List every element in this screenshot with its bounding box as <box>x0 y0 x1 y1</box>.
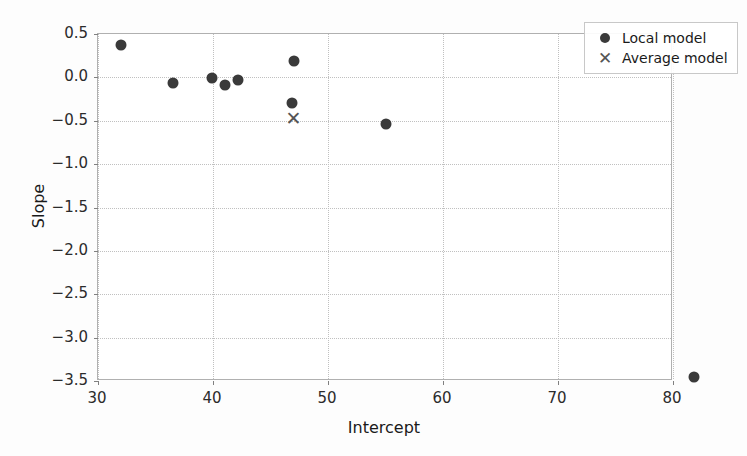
x-gridline <box>98 34 99 379</box>
x-tick <box>673 381 674 385</box>
data-point-local-model <box>233 74 244 85</box>
data-point-local-model <box>688 371 699 382</box>
x-tick-label: 70 <box>547 389 566 407</box>
y-tick <box>94 164 98 165</box>
plot-area: ✕ <box>97 33 672 380</box>
data-point-average-model: ✕ <box>286 109 302 128</box>
y-tick <box>94 77 98 78</box>
y-gridline <box>98 164 671 165</box>
y-gridline <box>98 338 671 339</box>
x-tick-label: 40 <box>202 389 221 407</box>
x-gridline <box>558 34 559 379</box>
cross-icon: ✕ <box>592 48 618 68</box>
x-tick <box>443 381 444 385</box>
y-gridline <box>98 251 671 252</box>
data-point-local-model <box>116 40 127 51</box>
x-axis-label: Intercept <box>348 418 420 437</box>
y-tick-label: −3.5 <box>40 371 88 389</box>
y-tick <box>94 208 98 209</box>
x-gridline <box>443 34 444 379</box>
y-tick-label: −2.5 <box>40 284 88 302</box>
x-gridline <box>213 34 214 379</box>
y-tick-label: −3.0 <box>40 328 88 346</box>
data-point-local-model <box>288 55 299 66</box>
x-tick <box>558 381 559 385</box>
x-gridline <box>328 34 329 379</box>
y-tick-label: −0.5 <box>40 111 88 129</box>
x-tick-label: 50 <box>317 389 336 407</box>
y-gridline <box>98 294 671 295</box>
legend: Local model ✕ Average model <box>584 22 738 74</box>
data-point-local-model <box>206 73 217 84</box>
data-point-local-model <box>167 77 178 88</box>
y-gridline <box>98 208 671 209</box>
y-tick <box>94 338 98 339</box>
y-tick-label: 0.5 <box>40 24 88 42</box>
x-tick <box>98 381 99 385</box>
scatter-plot-figure: ✕ Slope Intercept Local model ✕ Average … <box>0 0 747 456</box>
y-tick <box>94 381 98 382</box>
x-tick-label: 80 <box>662 389 681 407</box>
y-tick-label: −2.0 <box>40 241 88 259</box>
y-tick-label: −1.5 <box>40 198 88 216</box>
y-tick <box>94 251 98 252</box>
x-tick <box>328 381 329 385</box>
y-tick-label: 0.0 <box>40 67 88 85</box>
y-tick <box>94 34 98 35</box>
legend-item-average-model: ✕ Average model <box>592 48 728 68</box>
x-tick-label: 60 <box>432 389 451 407</box>
y-gridline <box>98 77 671 78</box>
data-point-local-model <box>380 119 391 130</box>
circle-icon <box>592 28 618 48</box>
x-tick-label: 30 <box>87 389 106 407</box>
x-tick <box>213 381 214 385</box>
data-point-local-model <box>219 80 230 91</box>
y-tick <box>94 121 98 122</box>
legend-label: Average model <box>618 50 728 66</box>
legend-item-local-model: Local model <box>592 28 728 48</box>
legend-label: Local model <box>618 30 706 46</box>
y-tick-label: −1.0 <box>40 154 88 172</box>
y-tick <box>94 294 98 295</box>
x-gridline <box>673 34 674 379</box>
